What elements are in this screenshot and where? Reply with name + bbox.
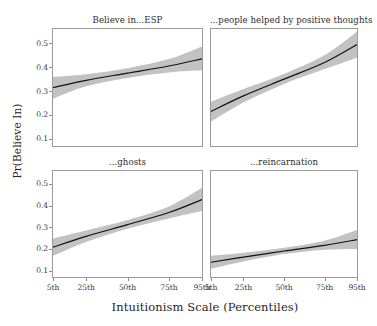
x-tick-label: 5th: [39, 283, 67, 292]
y-tick-label: 0.5: [26, 39, 48, 48]
x-tick-label: 95th: [343, 283, 371, 292]
x-tick-mark: [284, 278, 285, 281]
x-tick-mark: [243, 278, 244, 281]
x-tick-mark: [211, 278, 212, 281]
x-tick-label: 50th: [114, 283, 142, 292]
x-tick-label: 25th: [72, 283, 100, 292]
panel-esp: [52, 28, 203, 147]
y-axis-title: Pr(Believe In): [11, 81, 23, 201]
x-tick-label: 75th: [155, 283, 183, 292]
confidence-band: [53, 46, 202, 98]
x-tick-mark: [357, 278, 358, 281]
panel-plot-area: [211, 29, 357, 146]
x-tick-label: 50th: [270, 283, 298, 292]
panel-plot-area: [53, 171, 202, 277]
confidence-band: [53, 188, 202, 256]
x-tick-mark: [86, 278, 87, 281]
x-tick-label: 75th: [311, 283, 339, 292]
x-axis-title: Intuitionism Scale (Percentiles): [52, 300, 358, 314]
panel-title-esp: Believe in...ESP: [52, 15, 203, 25]
y-tick-label: 0.1: [26, 134, 48, 143]
panel-ghosts: [52, 170, 203, 278]
x-tick-mark: [53, 278, 54, 281]
figure-panel-grid: Pr(Believe In) 0.10.20.30.40.5 0.10.20.3…: [0, 0, 377, 326]
x-tick-label: 5th: [197, 283, 225, 292]
y-tick-label: 0.5: [26, 179, 48, 188]
panel-title-positive-thoughts: ...people helped by positive thoughts: [210, 15, 358, 25]
panel-positive-thoughts: [210, 28, 358, 147]
x-tick-mark: [325, 278, 326, 281]
y-tick-label: 0.3: [26, 87, 48, 96]
x-tick-mark: [128, 278, 129, 281]
panel-reincarnation: [210, 170, 358, 278]
x-tick-label: 25th: [229, 283, 257, 292]
y-tick-label: 0.3: [26, 223, 48, 232]
panel-title-ghosts: ...ghosts: [52, 157, 203, 167]
y-tick-label: 0.2: [26, 110, 48, 119]
x-tick-mark: [202, 278, 203, 281]
panel-title-reincarnation: ...reincarnation: [210, 157, 358, 167]
x-tick-mark: [169, 278, 170, 281]
y-tick-label: 0.1: [26, 266, 48, 275]
y-tick-label: 0.2: [26, 244, 48, 253]
y-tick-label: 0.4: [26, 63, 48, 72]
panel-plot-area: [211, 171, 357, 277]
panel-plot-area: [53, 29, 202, 146]
confidence-band: [211, 230, 357, 269]
confidence-band: [211, 32, 357, 122]
y-tick-label: 0.4: [26, 201, 48, 210]
